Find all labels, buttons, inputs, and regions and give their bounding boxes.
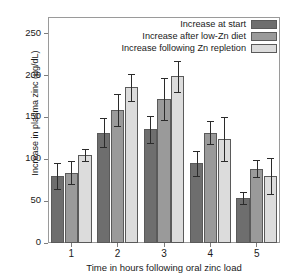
legend-swatch (251, 44, 277, 53)
x-tick-mark (256, 243, 257, 247)
y-tick-label: 100 (1, 152, 41, 163)
error-bar-cap-upper (253, 160, 260, 161)
bar (97, 133, 110, 243)
error-bar-cap-upper (147, 116, 154, 117)
error-bar-cap-lower (100, 147, 107, 148)
legend-item[interactable]: Increase at start (180, 19, 277, 29)
error-bar-cap-upper (221, 117, 228, 118)
x-tick-mark (117, 243, 118, 247)
bar (111, 110, 124, 243)
legend-label: Increase at start (180, 19, 246, 29)
error-bar-cap-lower (253, 177, 260, 178)
legend-swatch (251, 32, 277, 41)
error-bar (257, 160, 258, 177)
y-tick-mark (44, 33, 48, 34)
error-bar-cap-upper (240, 192, 247, 193)
error-bar-cap-lower (161, 120, 168, 121)
error-bar-cap-upper (161, 78, 168, 79)
error-bar (178, 61, 179, 93)
error-bar (150, 116, 151, 143)
error-bar (224, 117, 225, 161)
error-bar-cap-upper (82, 149, 89, 150)
y-tick-label: 0 (1, 236, 41, 247)
error-bar (210, 121, 211, 144)
x-tick-mark (71, 243, 72, 247)
error-bar-cap-lower (193, 176, 200, 177)
error-bar (243, 192, 244, 204)
y-tick-label: 50 (1, 194, 41, 205)
bar (250, 169, 263, 243)
y-tick-label: 250 (1, 27, 41, 38)
error-bar (85, 149, 86, 161)
error-bar-cap-upper (267, 158, 274, 159)
error-bar-cap-upper (54, 163, 61, 164)
bar (125, 87, 138, 243)
chart-container: Increase in plasma zinc (µg/dL) 05010015… (0, 0, 286, 278)
legend-label: Increase after low-Zn diet (142, 31, 246, 41)
x-tick-label: 3 (149, 248, 179, 259)
error-bar-cap-lower (267, 194, 274, 195)
x-tick-label: 4 (195, 248, 225, 259)
bar (78, 155, 91, 243)
error-bar-cap-upper (114, 94, 121, 95)
error-bar-cap-lower (240, 204, 247, 205)
x-tick-label: 1 (56, 248, 86, 259)
y-tick-mark (44, 75, 48, 76)
x-tick-label: 5 (242, 248, 272, 259)
error-bar-cap-upper (100, 118, 107, 119)
error-bar-cap-lower (207, 144, 214, 145)
error-bar-cap-lower (221, 161, 228, 162)
error-bar (131, 74, 132, 101)
error-bar-cap-lower (54, 189, 61, 190)
legend-item[interactable]: Increase following Zn repletion (121, 43, 277, 53)
bar (204, 133, 217, 243)
y-tick-mark (44, 159, 48, 160)
legend-item[interactable]: Increase after low-Zn diet (142, 31, 277, 41)
x-tick-label: 2 (103, 248, 133, 259)
chart-legend: Increase at startIncrease after low-Zn d… (121, 19, 277, 53)
error-bar-cap-lower (114, 126, 121, 127)
error-bar (197, 151, 198, 176)
error-bar (164, 78, 165, 120)
error-bar-cap-lower (68, 184, 75, 185)
error-bar-cap-lower (128, 101, 135, 102)
y-tick-mark (44, 243, 48, 244)
error-bar (57, 163, 58, 188)
error-bar-cap-upper (68, 161, 75, 162)
y-tick-label: 200 (1, 69, 41, 80)
y-tick-label: 150 (1, 110, 41, 121)
error-bar-cap-lower (82, 161, 89, 162)
error-bar-cap-upper (128, 74, 135, 75)
x-axis-title: Time in hours following oral zinc load (48, 262, 280, 273)
error-bar (271, 158, 272, 193)
y-tick-mark (44, 117, 48, 118)
bar (171, 76, 184, 243)
error-bar-cap-upper (193, 151, 200, 152)
error-bar-cap-upper (207, 121, 214, 122)
error-bar (104, 118, 105, 146)
error-bar (71, 161, 72, 184)
x-tick-mark (164, 243, 165, 247)
error-bar-cap-upper (174, 61, 181, 62)
y-tick-mark (44, 201, 48, 202)
error-bar-cap-lower (174, 92, 181, 93)
error-bar (118, 94, 119, 126)
x-tick-mark (210, 243, 211, 247)
legend-label: Increase following Zn repletion (121, 43, 246, 53)
error-bar-cap-lower (147, 143, 154, 144)
bar (144, 129, 157, 243)
legend-swatch (251, 20, 277, 29)
